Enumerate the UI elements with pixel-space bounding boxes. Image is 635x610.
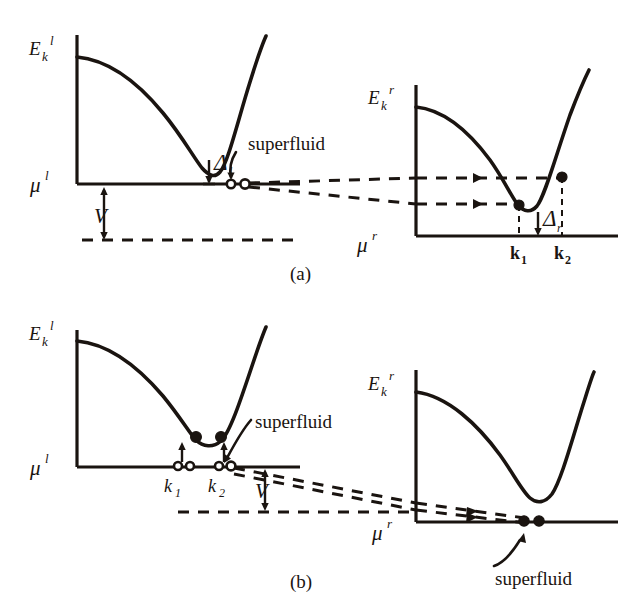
a-right-xtick-k1-sub: 1: [521, 253, 527, 267]
a-left-bias-label: V: [94, 204, 109, 228]
b-right-axis-label: E k r: [367, 368, 395, 399]
b-left-dot-k2: [216, 432, 227, 443]
a-right-xtick-k2-k: k: [554, 243, 564, 263]
a-left-axis-label-E: E: [28, 38, 41, 59]
a-right-dispersion-curve: [416, 70, 589, 211]
a-right-ray-lower-arrowhead: [473, 199, 483, 209]
a-right-axis-label: E k r: [367, 82, 395, 113]
b-right-dispersion-curve: [416, 372, 594, 502]
b-left-bias-label: V: [255, 479, 270, 503]
a-left-open-circle-2: [240, 179, 249, 188]
a-right-incoming-ray-lower: [416, 199, 521, 209]
b-right-mu-label: μ r: [371, 516, 393, 545]
b-left-mu-label: μ l: [29, 451, 49, 480]
a-left-mu-symbol: μ: [29, 173, 41, 197]
b-left-arrow-k2-head: [220, 442, 227, 450]
a-left-axis-label-k: k: [42, 49, 48, 64]
b-left-open-circle-3: [215, 462, 223, 470]
panel-b-caption: (b): [290, 571, 312, 593]
a-right-mu-symbol: μ: [356, 233, 368, 257]
b-left-open-circle-1: [174, 462, 182, 470]
a-right-xtick-k2: k 2: [554, 243, 571, 267]
a-ray-lower: [249, 187, 416, 204]
a-right-axis-label-k: k: [381, 98, 387, 113]
b-right-mu-symbol: μ: [371, 521, 383, 545]
a-right-xtick-k1: k 1: [510, 243, 527, 267]
b-left-axis-label-E: E: [28, 323, 41, 344]
b-right-superfluid-dot-1: [519, 516, 529, 526]
b-right-superfluid-dot-2: [534, 516, 544, 526]
a-right-mu-label: μ r: [356, 228, 378, 257]
a-right-axis-label-E: E: [367, 87, 380, 108]
a-ray-upper: [249, 178, 416, 183]
a-right-xtick-k1-k: k: [510, 243, 520, 263]
b-left-xtick-k2-sub: 2: [219, 486, 225, 500]
b-superfluid-label-right: superfluid: [495, 568, 573, 589]
b-left-xtick-k1-sub: 1: [175, 486, 181, 500]
b-left-open-circle-2: [186, 462, 194, 470]
a-right-xtick-k2-sub: 2: [565, 253, 571, 267]
b-left-bias-arrowhead-down: [261, 503, 268, 511]
a-left-delta-label: Δ: [213, 150, 228, 175]
physics-figure-svg: Δ l superfluid V E k l: [0, 0, 635, 610]
panel-b: superfluid V E k l μ l k 1: [28, 318, 618, 593]
a-right-axis-label-sup: r: [389, 82, 395, 97]
b-left-dot-k1: [191, 432, 202, 443]
b-left-xtick-k1: k 1: [164, 476, 181, 500]
panel-a-left-subplot: Δ l superfluid V E k l: [28, 33, 326, 240]
a-right-delta-subscript: r: [557, 221, 562, 235]
b-left-xtick-k2-k: k: [208, 476, 217, 496]
a-tunneling-rays: [249, 178, 416, 204]
b-superfluid-label-left: superfluid: [255, 411, 333, 432]
b-left-dispersion-curve: [77, 327, 266, 446]
b-superfluid-leader-right: [494, 540, 520, 566]
b-left-mu-symbol: μ: [29, 456, 41, 480]
a-right-gap-dimension: [534, 212, 541, 236]
a-left-mu-label: μ l: [29, 168, 49, 197]
panel-a-right-subplot: Δ r E k r μ r k 1 k 2: [356, 70, 618, 267]
b-right-axis-label-k: k: [381, 384, 387, 399]
b-left-excitation-arrow-k1: [178, 442, 185, 462]
a-left-mu-superscript: l: [45, 168, 49, 183]
a-superfluid-label: superfluid: [248, 133, 326, 154]
a-left-axis-label: E k l: [28, 33, 54, 64]
b-right-axis-label-sup: r: [389, 368, 395, 383]
a-right-mu-superscript: r: [372, 228, 378, 243]
b-left-axis-label: E k l: [28, 318, 54, 349]
panel-a-caption: (a): [290, 263, 311, 285]
a-left-open-circle-1: [227, 180, 235, 188]
a-left-dispersion-curve: [77, 36, 266, 175]
panel-b-right-subplot: superfluid E k r μ r: [367, 368, 618, 589]
a-right-ray-upper-arrowhead: [473, 173, 483, 183]
b-right-mu-superscript: r: [387, 516, 393, 531]
a-right-incoming-ray-upper: [416, 173, 560, 183]
b-left-axis-label-k: k: [42, 334, 48, 349]
b-right-axis-label-E: E: [367, 373, 380, 394]
figure-container: Δ l superfluid V E k l: [0, 0, 635, 610]
a-right-delta-label: Δ: [542, 206, 557, 231]
a-left-bias-arrowhead-up: [100, 187, 107, 195]
panel-b-left-subplot: superfluid V E k l μ l k 1: [28, 318, 333, 511]
b-left-xtick-k1-k: k: [164, 476, 173, 496]
b-left-xtick-k2: k 2: [208, 476, 225, 500]
b-left-arrow-k1-head: [178, 442, 185, 450]
a-left-axis-label-sup: l: [50, 33, 54, 48]
b-left-mu-superscript: l: [45, 451, 49, 466]
panel-a: Δ l superfluid V E k l: [28, 33, 618, 285]
b-left-axis-label-sup: l: [50, 318, 54, 333]
